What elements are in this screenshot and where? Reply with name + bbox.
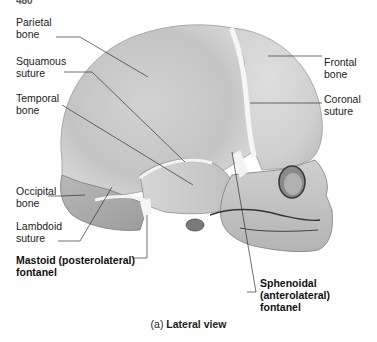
label-squamous-suture: Squamous suture	[16, 55, 66, 79]
label-mastoid-fontanel: Mastoid (posterolateral) fontanel	[16, 254, 135, 278]
ear-opening-shape	[186, 219, 204, 231]
label-coronal-suture: Coronal suture	[324, 93, 361, 117]
label-parietal-bone: Parietal bone	[16, 16, 52, 40]
label-sphenoidal-fontanel: Sphenoidal (anterolateral) fontanel	[260, 277, 330, 313]
label-occipital-bone: Occipital bone	[16, 185, 56, 209]
caption-prefix: (a)	[151, 318, 164, 330]
label-lambdoid-suture: Lambdoid suture	[16, 220, 62, 244]
caption-title: Lateral view	[166, 318, 226, 330]
figure-caption: (a) Lateral view	[0, 318, 377, 330]
label-temporal-bone: Temporal bone	[16, 92, 59, 116]
label-frontal-bone: Frontal bone	[324, 56, 357, 80]
